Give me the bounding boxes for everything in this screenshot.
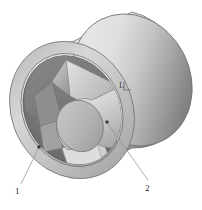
callout-1-anchor-dot	[37, 145, 40, 148]
callout-1-label: 1	[15, 186, 20, 196]
callout-2-label: 2	[145, 183, 150, 193]
technical-figure: L 1 2	[0, 0, 202, 210]
duct-assembly-illustration: L 1 2	[0, 0, 202, 210]
callout-2-anchor-dot	[105, 120, 108, 123]
